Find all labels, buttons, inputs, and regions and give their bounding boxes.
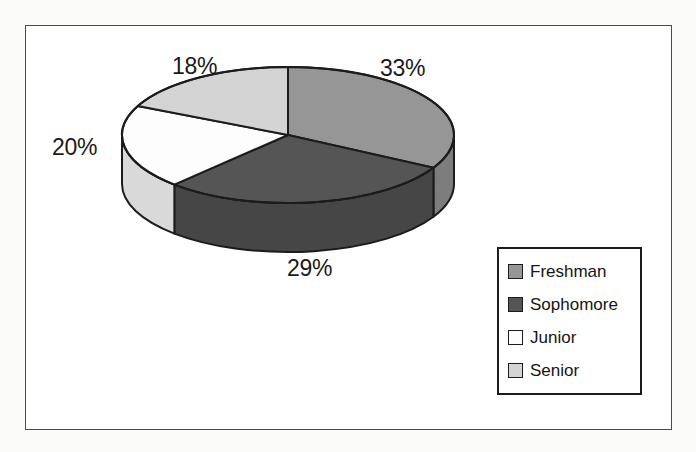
legend-swatch-icon-sophomore — [508, 297, 523, 312]
pie-label-junior: 18% — [172, 53, 217, 80]
legend-label-sophomore: Sophomore — [530, 296, 618, 313]
chart-legend: Freshman Sophomore Junior Senior — [497, 247, 642, 395]
pie-label-freshman: 33% — [380, 55, 425, 82]
legend-swatch-icon-junior — [508, 330, 523, 345]
legend-label-freshman: Freshman — [530, 263, 607, 280]
legend-swatch-icon-senior — [508, 363, 523, 378]
legend-item-sophomore: Sophomore — [508, 289, 632, 319]
pie-label-sophomore: 29% — [287, 255, 332, 282]
legend-swatch-icon-freshman — [508, 264, 523, 279]
legend-label-senior: Senior — [530, 362, 579, 379]
legend-item-junior: Junior — [508, 323, 632, 353]
legend-item-senior: Senior — [508, 356, 632, 386]
legend-label-junior: Junior — [530, 329, 576, 346]
pie-label-senior: 20% — [52, 134, 97, 161]
legend-item-freshman: Freshman — [508, 256, 632, 286]
